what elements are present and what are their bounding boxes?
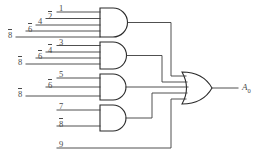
- wire-and2-to-or: [127, 56, 187, 83]
- and-gate-2: [100, 42, 127, 69]
- output-label-A0: A0: [242, 82, 251, 94]
- logic-circuit-figure: 1 2 4 6 8 3 4 6 8 5 6 8 7 8 9: [0, 0, 267, 164]
- label-direct-9: 9: [59, 140, 63, 149]
- label-g3-5: 5: [59, 70, 63, 79]
- label-g2-4bar: 4: [48, 44, 52, 54]
- label-g1-6bar: 6: [28, 23, 32, 33]
- or-gate: [182, 72, 212, 104]
- label-g4-7: 7: [59, 102, 63, 111]
- and-gate-4: [100, 105, 126, 131]
- label-g4-8bar: 8: [59, 118, 63, 128]
- label-g1-8bar: 8: [8, 29, 12, 39]
- and-gate-3-input-wires: [26, 78, 100, 96]
- and-gate-2-body: [100, 42, 127, 69]
- and-gate-4-body: [100, 105, 126, 131]
- label-g2-8bar: 8: [18, 56, 22, 66]
- wire-and4-to-or: [126, 93, 187, 118]
- and-gate-3: [100, 74, 126, 100]
- wire-and1-to-or: [128, 23, 186, 77]
- label-g1-1: 1: [59, 4, 63, 13]
- and-gate-4-input-wires: [57, 110, 100, 126]
- label-g2-3: 3: [59, 38, 63, 47]
- label-g2-6bar: 6: [38, 50, 42, 60]
- and-gate-3-body: [100, 74, 126, 100]
- label-g3-8bar: 8: [18, 88, 22, 98]
- or-gate-body: [182, 72, 212, 104]
- and-gate-1: [100, 8, 128, 37]
- and-gate-1-body: [100, 8, 128, 37]
- label-g1-2bar: 2: [48, 11, 52, 21]
- label-g1-4: 4: [38, 17, 42, 26]
- label-g3-6bar: 6: [48, 79, 52, 89]
